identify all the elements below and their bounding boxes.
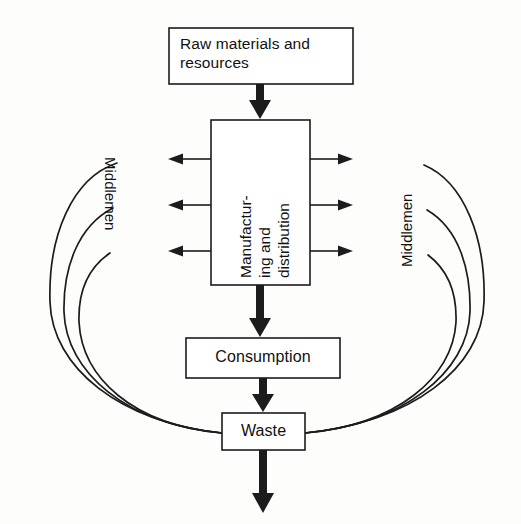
middlemen-left-curve-2 [64, 208, 222, 433]
box-label-manufacturing: Manufactur- ing and distribution [236, 133, 294, 278]
arrow-manufacturing-to-middlemen-right-3 [310, 246, 353, 257]
box-label-waste: Waste [222, 421, 305, 441]
arrow-manufacturing-to-middlemen-left-1 [168, 154, 211, 165]
middlemen-left-curve-1 [50, 163, 222, 433]
side-label-middlemen-left: Middlemen [102, 157, 119, 230]
middlemen-right-curve-2 [305, 210, 470, 433]
arrow-manufacturing-to-middlemen-left-2 [168, 200, 211, 211]
arrow-consumption-to-waste [252, 378, 274, 412]
arrow-manufacturing-to-middlemen-left-3 [168, 246, 211, 257]
arrow-waste-outflow [252, 450, 274, 513]
arrow-manufacturing-to-middlemen-right-2 [310, 200, 353, 211]
arrow-raw-to-manufacturing [249, 84, 271, 119]
box-label-raw-materials: Raw materials and resources [180, 34, 330, 72]
arrow-manufacturing-to-middlemen-right-1 [310, 154, 353, 165]
diagram-root: Raw materials and resources Manufactur- … [0, 0, 521, 524]
box-label-consumption: Consumption [186, 347, 340, 367]
arrow-manufacturing-to-consumption [249, 285, 271, 337]
side-label-middlemen-right: Middlemen [398, 194, 415, 267]
